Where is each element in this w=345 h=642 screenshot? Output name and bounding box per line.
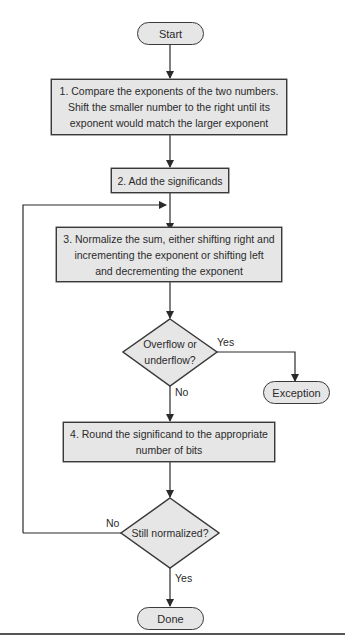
step1-line2: Shift the smaller number to the right un…: [68, 99, 270, 115]
normalized-yes-label: Yes: [175, 572, 192, 584]
step1-line1: 1. Compare the exponents of the two numb…: [60, 83, 279, 99]
start-label: Start: [159, 26, 182, 42]
normalized-decision-text: Still normalized?: [122, 525, 218, 541]
step3-normalize: 3. Normalize the sum, either shifting ri…: [56, 227, 282, 282]
decision1-line1: Overflow or: [125, 336, 215, 352]
step2-label: 2. Add the significands: [117, 173, 222, 189]
normalized-no-label: No: [106, 517, 119, 529]
bottom-divider: [0, 633, 345, 635]
decision1-line2: underflow?: [125, 352, 215, 368]
step3-line1: 3. Normalize the sum, either shifting ri…: [63, 231, 274, 247]
step1-compare-exponents: 1. Compare the exponents of the two numb…: [51, 79, 287, 135]
step4-round-significand: 4. Round the significand to the appropri…: [63, 422, 275, 462]
step4-line1: 4. Round the significand to the appropri…: [70, 426, 268, 442]
done-label: Done: [157, 611, 183, 627]
step3-line3: and decrementing the exponent: [95, 263, 243, 279]
step2-add-significands: 2. Add the significands: [111, 168, 229, 193]
start-terminal: Start: [137, 22, 204, 45]
overflow-yes-label: Yes: [217, 336, 234, 348]
exception-label: Exception: [272, 385, 320, 401]
step4-line2: number of bits: [136, 442, 203, 458]
step3-line2: incrementing the exponent or shifting le…: [74, 247, 263, 263]
overflow-decision-text: Overflow or underflow?: [125, 336, 215, 368]
exception-terminal: Exception: [263, 381, 330, 404]
decision2-label: Still normalized?: [122, 525, 218, 541]
step1-line3: exponent would match the larger exponent: [70, 115, 268, 131]
overflow-no-label: No: [175, 386, 188, 398]
done-terminal: Done: [137, 607, 204, 630]
